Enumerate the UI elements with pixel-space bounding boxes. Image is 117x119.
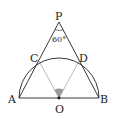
- angle-label: 60°: [52, 35, 66, 44]
- label-O: O: [55, 103, 64, 116]
- label-P: P: [55, 10, 63, 23]
- geometry-diagram: 60° P C D A B O: [0, 0, 117, 119]
- label-D: D: [79, 52, 88, 65]
- label-A: A: [7, 93, 17, 106]
- center-dot: [58, 97, 61, 100]
- label-B: B: [100, 93, 108, 106]
- angle-P-arc: [55, 30, 63, 31]
- label-C: C: [30, 52, 38, 65]
- angle-COD-shade: [55, 89, 64, 98]
